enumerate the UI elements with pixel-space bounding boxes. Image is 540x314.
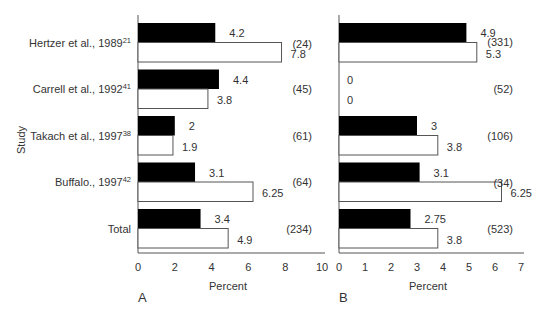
bar-black (339, 163, 420, 183)
bar-value-label: 3 (431, 120, 437, 132)
bar-white (339, 136, 438, 156)
bar-value-label: 3.1 (434, 167, 449, 179)
n-label: (45) (292, 83, 312, 95)
bar-value-label: 3.8 (447, 234, 462, 246)
bar-value-label: 4.9 (237, 234, 252, 246)
bar-black (339, 23, 466, 43)
n-label: (64) (292, 176, 312, 188)
x-tick-label: 0 (336, 261, 342, 273)
citation-superscript: 21 (123, 36, 131, 45)
bar-white (339, 229, 438, 249)
category-label: Total (108, 223, 131, 235)
category-label: Carrell et al., 199241 (33, 82, 131, 95)
bar-value-label: 1.9 (182, 141, 197, 153)
n-label: (523) (487, 223, 513, 235)
chart-figure: 0246810PercentA4.27.8(24)Hertzer et al.,… (0, 0, 540, 314)
bar-black (138, 70, 219, 90)
bar-black (339, 116, 417, 136)
x-axis-label: Percent (209, 280, 247, 292)
bar-value-label: 0 (347, 94, 353, 106)
bar-white (138, 229, 228, 249)
x-tick-label: 1 (362, 261, 368, 273)
x-tick-label: 10 (316, 261, 328, 273)
x-tick-label: 4 (209, 261, 215, 273)
x-axis-label: Percent (409, 280, 447, 292)
x-tick-label: 0 (135, 261, 141, 273)
bar-white (138, 182, 253, 202)
category-name: Takach et al., 1997 (30, 130, 122, 142)
bar-black (339, 209, 411, 229)
x-tick-label: 5 (466, 261, 472, 273)
n-label: (61) (292, 130, 312, 142)
n-label: (52) (493, 83, 513, 95)
category-label: Takach et al., 199738 (30, 129, 131, 142)
bar-value-label: 3.1 (209, 167, 224, 179)
bar-value-label: 4.2 (229, 27, 244, 39)
x-tick-label: 6 (245, 261, 251, 273)
category-name: Buffalo., 1997 (55, 176, 123, 188)
bar-value-label: 5.3 (486, 48, 501, 60)
x-tick-label: 6 (492, 261, 498, 273)
n-label: (106) (487, 130, 513, 142)
bar-white (138, 89, 208, 109)
bar-black (138, 209, 201, 229)
category-name: Total (108, 223, 131, 235)
n-label: (331) (487, 36, 513, 48)
bar-value-label: 4.4 (233, 74, 248, 86)
x-tick-label: 4 (440, 261, 446, 273)
panel-label: B (339, 290, 348, 305)
bar-value-label: 2.75 (425, 213, 446, 225)
n-label: (234) (286, 223, 312, 235)
bar-value-label: 0 (347, 74, 353, 86)
n-label: (24) (292, 38, 312, 50)
citation-superscript: 41 (123, 82, 131, 91)
x-tick-label: 2 (172, 261, 178, 273)
x-tick-label: 7 (518, 261, 524, 273)
bar-value-label: 3.8 (217, 94, 232, 106)
x-tick-label: 3 (414, 261, 420, 273)
bar-black (138, 163, 195, 183)
n-label: (34) (493, 177, 513, 189)
panel-label: A (138, 290, 147, 305)
bar-value-label: 3.4 (215, 213, 230, 225)
bar-black (138, 23, 215, 43)
bar-value-label: 6.25 (511, 187, 532, 199)
category-name: Carrell et al., 1992 (33, 83, 123, 95)
x-tick-label: 2 (388, 261, 394, 273)
bar-white (339, 182, 502, 202)
citation-superscript: 42 (123, 175, 131, 184)
bar-black (138, 116, 175, 136)
category-name: Hertzer et al., 1989 (29, 37, 123, 49)
bar-white (138, 136, 173, 156)
citation-superscript: 38 (123, 129, 131, 138)
bar-value-label: 6.25 (262, 187, 283, 199)
bar-white (339, 43, 477, 63)
x-tick-label: 8 (282, 261, 288, 273)
bar-value-label: 2 (189, 120, 195, 132)
bar-white (138, 43, 282, 63)
bar-value-label: 3.8 (447, 141, 462, 153)
y-axis-label: Study (15, 125, 27, 154)
category-label: Hertzer et al., 198921 (29, 36, 131, 49)
category-label: Buffalo., 199742 (55, 175, 131, 188)
